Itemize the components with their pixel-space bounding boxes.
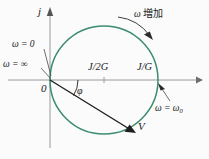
omega-resonance-leader	[158, 83, 170, 101]
omega-resonance-label: ω = ω0	[155, 104, 183, 114]
phasor-label: V	[138, 121, 145, 132]
imaginary-axis-label: j	[38, 6, 41, 17]
full-point-label: J/G	[137, 62, 152, 73]
real-axis	[8, 77, 203, 84]
half-point-label: J/2G	[88, 62, 108, 73]
phase-angle-label: φ	[77, 86, 83, 96]
omega-resonance-text: ω = ω	[155, 103, 180, 113]
omega-zero-label: ω = 0	[12, 40, 35, 50]
omega-increasing-text: 増加	[143, 8, 163, 19]
omega-resonance-subscript: 0	[180, 107, 183, 114]
diagram-canvas	[0, 0, 209, 159]
nyquist-diagram: j 0 ω = 0 ω = ∞ ω = ω0 ω 増加 J/2G J/G φ V	[0, 0, 209, 159]
phasor-vector	[50, 80, 136, 133]
omega-increasing-symbol: ω	[134, 9, 141, 19]
origin-label: 0	[41, 83, 47, 94]
omega-increasing-label: ω 増加	[134, 9, 163, 20]
omega-infinity-label: ω = ∞	[3, 60, 28, 70]
